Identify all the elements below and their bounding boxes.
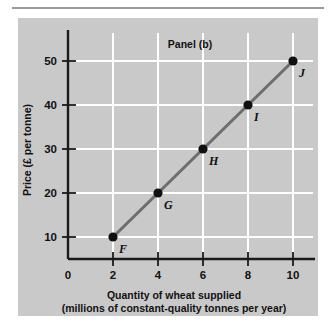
axes bbox=[68, 30, 315, 259]
data-point-g[interactable] bbox=[153, 188, 162, 197]
data-point-label-g: G bbox=[164, 198, 173, 212]
x-tick-label: 8 bbox=[245, 269, 252, 281]
data-point-label-h: H bbox=[208, 154, 219, 168]
data-point-label-i: I bbox=[253, 110, 260, 124]
panel-title: Panel (b) bbox=[168, 38, 212, 50]
data-point-i[interactable] bbox=[243, 100, 252, 109]
y-axis-title: Price (£ per tonne) bbox=[21, 104, 33, 196]
x-tick-label: 6 bbox=[200, 269, 206, 281]
x-axis-title-subline: (millions of constant-quality tonnes per… bbox=[62, 302, 287, 314]
y-tick-label: 20 bbox=[44, 187, 57, 199]
data-point-label-j: J bbox=[298, 66, 306, 80]
supply-curve-chart: 50 40 30 20 10 0 2 4 6 8 10 F G H I J Pa… bbox=[0, 0, 336, 336]
x-tick-label: 2 bbox=[110, 269, 116, 281]
x-tick-label: 0 bbox=[65, 269, 71, 281]
data-point-label-f: F bbox=[118, 242, 127, 256]
y-tick-label: 50 bbox=[44, 55, 57, 67]
y-tick-label: 40 bbox=[44, 99, 57, 111]
x-tick-label: 10 bbox=[287, 269, 300, 281]
x-axis-title: Quantity of wheat supplied bbox=[107, 289, 241, 301]
figure-root: 50 40 30 20 10 0 2 4 6 8 10 F G H I J Pa… bbox=[0, 0, 336, 336]
x-tick-label: 4 bbox=[155, 269, 162, 281]
y-tick-label: 30 bbox=[44, 143, 57, 155]
y-tick-label: 10 bbox=[44, 231, 57, 243]
data-point-h[interactable] bbox=[198, 144, 207, 153]
data-point-j[interactable] bbox=[288, 56, 297, 65]
gridlines bbox=[68, 33, 313, 259]
data-point-f[interactable] bbox=[108, 232, 117, 241]
